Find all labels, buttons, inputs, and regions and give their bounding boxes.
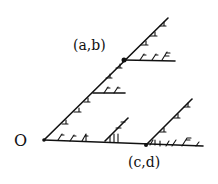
ab-branch-ticks bbox=[140, 52, 170, 60]
tree-diagram: O (a,b) (c,d) bbox=[0, 0, 218, 184]
mid-branch-ticks bbox=[104, 87, 120, 93]
upper-diagonal-branch bbox=[44, 18, 168, 140]
cd-diagonal-ticks bbox=[160, 103, 190, 132]
point-cd-label: (c,d) bbox=[128, 154, 160, 170]
point-ab-label: (a,b) bbox=[73, 37, 106, 53]
ab-horizontal-branch bbox=[124, 60, 175, 61]
point-cd bbox=[144, 143, 148, 147]
base-line bbox=[44, 140, 203, 146]
cd-diagonal-branch bbox=[146, 99, 192, 145]
origin-label: O bbox=[14, 131, 27, 150]
origin-point bbox=[42, 138, 46, 142]
point-ab bbox=[122, 58, 127, 63]
